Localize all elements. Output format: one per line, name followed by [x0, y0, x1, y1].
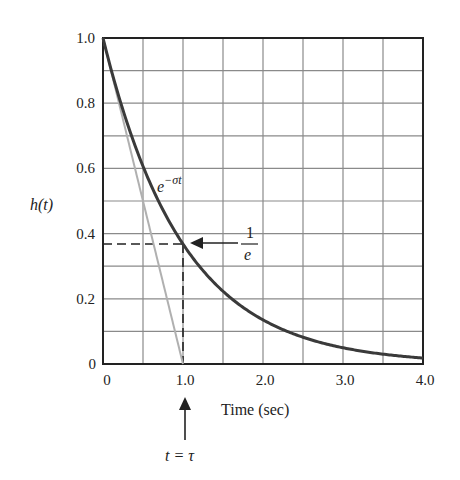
x-tick-label: 4.0 [416, 372, 435, 388]
y-tick-label: 1.0 [76, 30, 95, 46]
one-over-e-denominator: e [244, 246, 251, 263]
x-axis-label: Time (sec) [221, 401, 289, 419]
curve-label: e−σt [157, 173, 182, 195]
y-tick-label: 0.8 [76, 95, 95, 111]
y-tick-label: 0.4 [76, 226, 95, 242]
x-tick-label: 3.0 [336, 372, 355, 388]
y-tick-label: 0 [89, 356, 97, 372]
y-tick-label: 0.2 [76, 291, 95, 307]
decay-chart: 00.20.40.60.81.0 01.02.03.04.0 h(t) Time… [0, 0, 460, 480]
grid-lines [103, 38, 423, 364]
one-over-e-numerator: 1 [246, 224, 254, 241]
x-tick-label: 2.0 [256, 372, 275, 388]
tau-arrow-head-icon [179, 397, 191, 410]
tau-label: t = τ [165, 447, 195, 464]
y-tick-labels: 00.20.40.60.81.0 [76, 30, 96, 372]
y-axis-label: h(t) [30, 196, 53, 214]
one-over-e-arrow-head-icon [190, 237, 203, 249]
x-tick-label: 1.0 [176, 372, 195, 388]
y-tick-label: 0.6 [76, 160, 95, 176]
x-tick-label: 0 [103, 372, 111, 388]
x-tick-labels: 01.02.03.04.0 [103, 372, 434, 388]
